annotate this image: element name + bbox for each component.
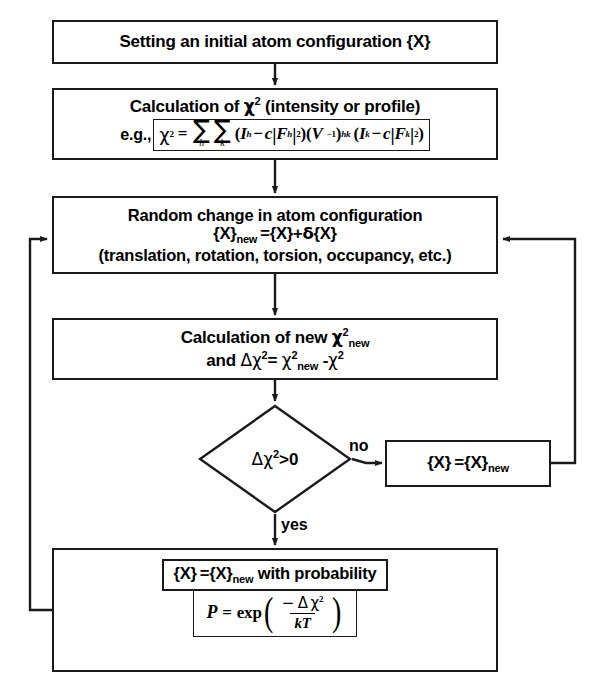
eg-label: e.g., — [120, 126, 153, 144]
paren-close-large: ) — [332, 596, 341, 629]
sub-new-3: new — [233, 573, 254, 585]
chi-symbol: χ — [244, 96, 255, 116]
fraction-numerator: − Δ χ2 — [278, 594, 328, 613]
node-probability-inner-box: {X} ={X}new with probability — [162, 559, 389, 591]
node-random-line2: {X}new ={X}+δ{X} — [213, 224, 337, 246]
node-accept-text: {X} ={X}new — [427, 453, 509, 475]
formula-P: P — [206, 602, 217, 623]
fraction-delta-chi2-over-kT: − Δ χ2 kT — [278, 594, 328, 632]
node-random-line1: Random change in atom configuration — [128, 206, 423, 224]
node-chi2-calculation: Calculation of χ2 (intensity or profile)… — [52, 88, 498, 160]
summation-over-h: ∑h — [193, 121, 210, 148]
formula-chi2-expression: χ2 = ∑h ∑k (Ih −c |Fh|2 )(V −1)hk (Ik −c… — [159, 121, 423, 148]
node-accept-configuration: {X} ={X}new — [385, 440, 551, 487]
flowchart-canvas: Setting an initial atom configuration {X… — [0, 0, 597, 697]
node-random-line3: (translation, rotation, torsion, occupan… — [99, 246, 452, 264]
node-probability-inner-text: {X} ={X}new with probability — [174, 564, 377, 582]
node-new-chi2-calculation: Calculation of new χ2new and Δχ2= χ2new … — [52, 318, 498, 380]
delta-symbol: δ — [302, 224, 313, 243]
node-initial-text: Setting an initial atom configuration {X… — [119, 32, 430, 51]
node-chi2-title-prefix: Calculation of — [130, 97, 244, 116]
fraction-denominator: kT — [290, 613, 314, 632]
formula-equals: = — [217, 603, 237, 623]
formula-probability-box: P = exp ( − Δ χ2 kT ) — [193, 590, 356, 637]
node-initial-configuration: Setting an initial atom configuration {X… — [52, 20, 498, 64]
formula-probability-expression: P = exp ( − Δ χ2 kT ) — [206, 594, 343, 632]
node-probability-acceptance: {X} ={X}new with probability P = exp ( −… — [52, 548, 498, 672]
node-chi2-title: Calculation of χ2 (intensity or profile) — [130, 95, 421, 116]
decision-label: Δχ2>0 — [198, 404, 352, 514]
formula-exp: exp — [237, 603, 262, 623]
formula-chi2-box: χ2 = ∑h ∑k (Ih −c |Fh|2 )(V −1)hk (Ik −c… — [153, 119, 429, 151]
sub-new-2: new — [488, 462, 509, 474]
node-newchi2-line2: and Δχ2= χ2new -χ2 — [206, 349, 343, 372]
summation-over-k: ∑k — [214, 121, 231, 148]
arrow-no-branch — [352, 459, 382, 463]
node-chi2-formula-row: e.g., χ2 = ∑h ∑k (Ih −c |Fh|2 )(V −1)hk … — [54, 119, 496, 151]
node-random-change: Random change in atom configuration {X}n… — [52, 196, 498, 274]
arrow-right-feedback-loop — [503, 239, 575, 463]
node-newchi2-line1: Calculation of new χ2new — [181, 326, 370, 349]
chi-symbol-2: χ — [332, 326, 343, 346]
edge-label-no: no — [349, 437, 369, 455]
fraction-denominator-text: kT — [294, 615, 310, 631]
paren-open-large: ( — [264, 596, 273, 629]
arrow-left-feedback-loop — [30, 239, 52, 610]
chi-sub-new-1: new — [349, 337, 370, 349]
node-decision-delta-chi2: Δχ2>0 — [198, 404, 352, 514]
edge-label-yes: yes — [281, 516, 308, 534]
node-newchi2-prefix: Calculation of new — [181, 327, 332, 346]
sub-new-1: new — [236, 233, 257, 245]
node-chi2-title-suffix: (intensity or profile) — [261, 97, 421, 116]
